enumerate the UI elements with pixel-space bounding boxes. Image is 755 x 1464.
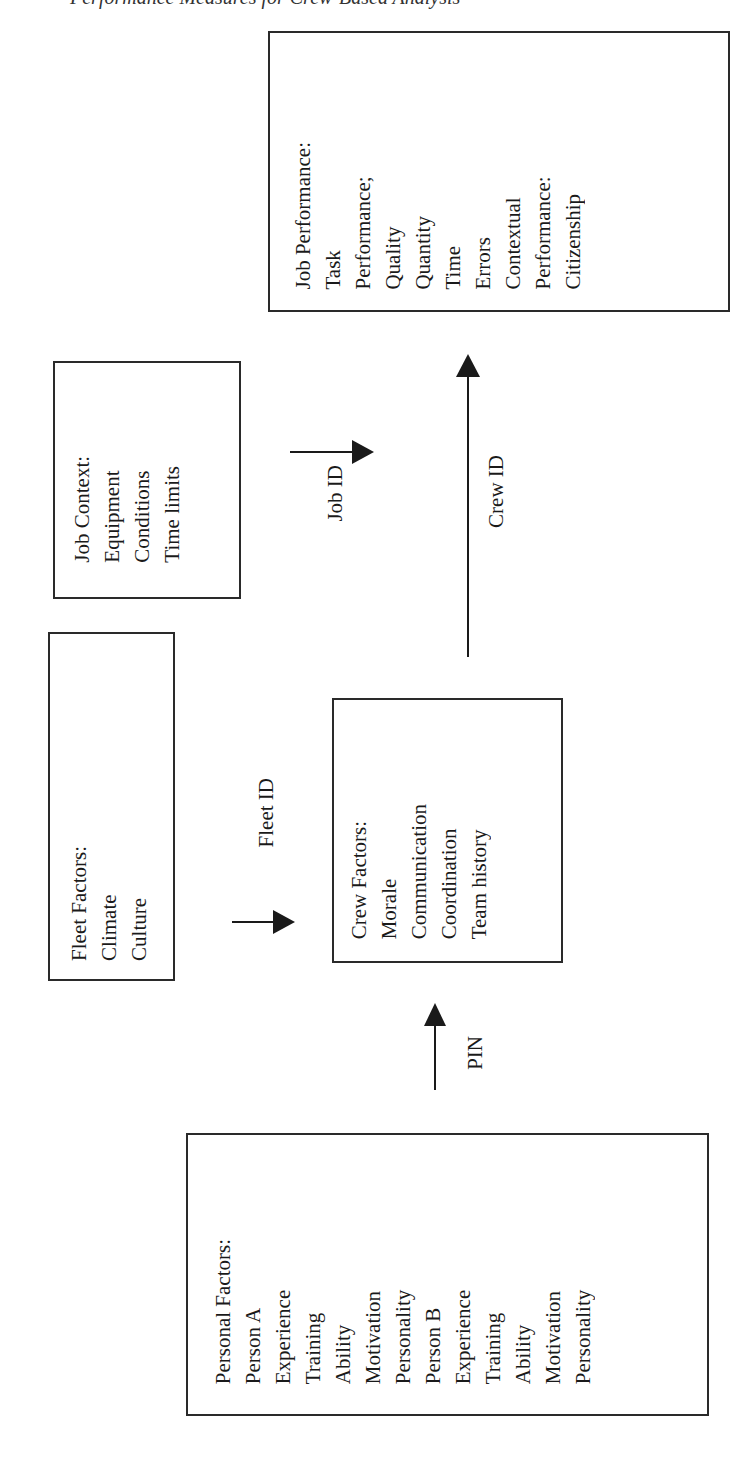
box-title: Job Context: (67, 448, 97, 563)
personal-factors-box: Personal Factors: Person A Experience Tr… (186, 1133, 709, 1416)
box-title: Fleet Factors: (64, 846, 94, 961)
job-id-label: Job ID (320, 465, 350, 522)
box-title: Job Performance: (288, 142, 318, 290)
crew-id-label: Crew ID (481, 455, 511, 528)
pin-arrow (424, 1003, 446, 1090)
box-title: Crew Factors: (344, 768, 374, 939)
crew-factors-box: Crew Factors: Morale Communication Coord… (332, 698, 563, 963)
fleet-id-label: Fleet ID (251, 778, 281, 847)
fleet-factors-content: Fleet Factors: Climate Culture (64, 846, 154, 961)
fleet-factors-box: Fleet Factors: Climate Culture (48, 632, 175, 981)
box-title: Personal Factors: (208, 1239, 238, 1384)
crew-id-arrow (456, 354, 480, 657)
job-performance-box: Job Performance: Task Performance; Quali… (268, 31, 730, 312)
personal-factors-content: Personal Factors: Person A Experience Tr… (208, 1239, 598, 1384)
job-context-box: Job Context: Equipment Conditions Time l… (53, 361, 241, 599)
person-b-label: Person B (418, 1239, 448, 1384)
job-id-arrow (290, 440, 374, 464)
fleet-id-arrow (232, 910, 295, 934)
job-context-content: Job Context: Equipment Conditions Time l… (67, 448, 187, 563)
crew-factors-content: Crew Factors: Morale Communication Coord… (344, 768, 494, 939)
job-performance-content: Job Performance: Task Performance; Quali… (288, 142, 588, 290)
person-a-label: Person A (238, 1239, 268, 1384)
pin-label: PIN (460, 1036, 490, 1070)
